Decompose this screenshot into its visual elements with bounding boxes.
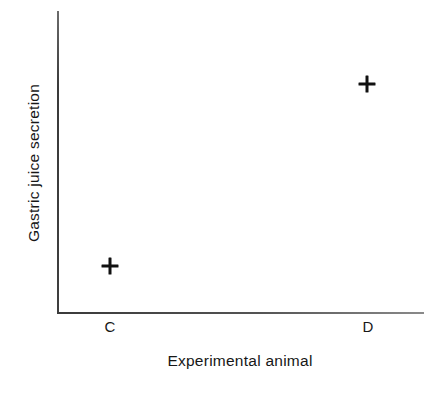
x-axis-title: Experimental animal [167,353,312,369]
data-point-c [101,257,118,274]
data-point-d [359,76,376,93]
plot-area [57,11,424,313]
x-tick-label-d: D [362,319,373,334]
x-tick-label-c: C [104,319,115,334]
chart-figure: C D Experimental animal Gastric juice se… [0,0,444,397]
y-axis-title: Gastric juice secretion [26,84,42,242]
